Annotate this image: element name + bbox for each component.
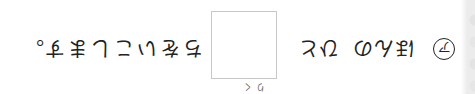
torn-paper-edge: [457, 0, 475, 94]
sentence-segment-2: ひと: [298, 36, 339, 60]
worksheet-scan: ア ほんの ひと りく ちをいこします。: [0, 0, 475, 94]
sentence-segment-1: ほんの: [352, 36, 415, 60]
answer-furigana: りく: [221, 82, 265, 92]
question-marker-label: ア: [438, 40, 451, 59]
question-marker-circle: ア: [433, 38, 455, 60]
kanji-answer-box[interactable]: [211, 11, 277, 79]
sentence-segment-3: ちをいこします。: [21, 36, 203, 60]
